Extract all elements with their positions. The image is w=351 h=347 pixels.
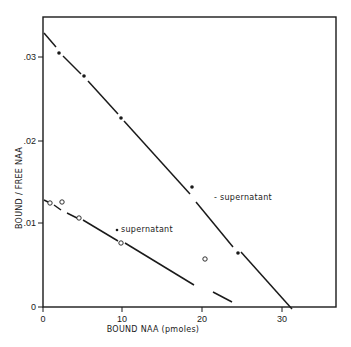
y-axis: .03 .02 .01 0 BOUND / FREE NAA	[15, 52, 43, 312]
y-tick-label: .01	[23, 218, 36, 228]
fit-line-minus-supernatant	[44, 33, 292, 309]
scatchard-plot: .03 .02 .01 0 BOUND / FREE NAA 0 10 20 3…	[0, 0, 351, 347]
x-axis: 0 10 20 30 BOUND NAA (pmoles)	[40, 307, 287, 334]
x-tick-label: 20	[197, 314, 207, 324]
plot-frame	[43, 17, 336, 307]
annotation-minus-supernatant: - supernatant	[214, 193, 272, 202]
x-axis-label: BOUND NAA (pmoles)	[107, 325, 200, 334]
x-tick-label: 30	[277, 314, 287, 324]
x-tick-label: 10	[117, 314, 127, 324]
annotation-plus-supernatant: supernatant	[121, 225, 173, 234]
y-tick-label: 0	[31, 302, 36, 312]
fit-line-plus-supernatant	[44, 200, 232, 302]
y-axis-label: BOUND / FREE NAA	[15, 147, 24, 229]
y-tick-label: .02	[23, 136, 36, 146]
x-tick-label: 0	[40, 314, 45, 324]
plus-marker-icon	[116, 229, 119, 232]
y-tick-label: .03	[23, 52, 36, 62]
